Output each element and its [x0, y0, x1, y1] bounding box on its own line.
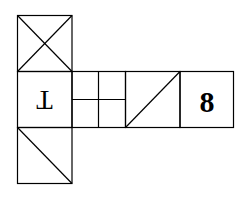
- face-top: [18, 16, 73, 72]
- face-left-letter: T: [36, 85, 53, 115]
- cube-net-diagram: T 8: [0, 0, 247, 198]
- face-bottom: [18, 128, 73, 184]
- face-center: [72, 72, 126, 128]
- diagonal-up-line: [126, 72, 181, 128]
- diagonal-down-line: [18, 128, 73, 184]
- face-right: [126, 72, 181, 128]
- face-far-right-number: 8: [200, 85, 215, 118]
